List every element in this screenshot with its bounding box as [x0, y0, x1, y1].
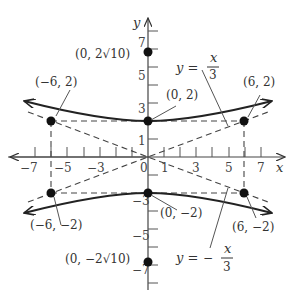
x-tick-label: 3	[192, 161, 200, 175]
point-label: (−6, 2)	[35, 75, 77, 89]
x-axis-label: x	[276, 160, 284, 175]
rect-corner-point	[240, 117, 249, 126]
x-tick-label: 5	[225, 161, 233, 175]
y-tick-label: −5	[132, 229, 150, 243]
point-label: (0, 2)	[166, 88, 198, 102]
point-label: (0, 2√10)	[75, 47, 130, 61]
x-tick-label: −5	[54, 161, 72, 175]
focus-top-point	[144, 48, 153, 57]
x-tick-label: −7	[20, 161, 38, 175]
asymptote-label-num: x	[210, 50, 218, 65]
hyperbola-graph: −7 −5 −3 0 1 3 5 7 x 7 5 3 1 −3 −5	[0, 0, 300, 298]
y-tick-label: 3	[138, 102, 146, 116]
point-label: (−6, −2)	[30, 218, 82, 232]
point-label: (6, −2)	[232, 220, 274, 234]
asymptote-label-den: 3	[209, 68, 217, 82]
asymptote-label-pos: y = x 3	[175, 50, 219, 82]
x-tick-label: 0	[140, 161, 148, 175]
y-tick-label: 1	[138, 134, 146, 148]
y-tick-label: 7	[138, 36, 146, 50]
point-label: (0, −2)	[160, 206, 202, 220]
x-tick-label: 7	[257, 161, 265, 175]
vertex-bottom-point	[144, 189, 153, 198]
x-tick-label: −3	[87, 161, 105, 175]
vertex-top-point	[144, 117, 153, 126]
asymptote-label-den: 3	[223, 260, 231, 274]
point-label: (0, −2√10)	[65, 252, 130, 266]
leader-lines	[54, 70, 260, 248]
y-axis-label: y	[132, 15, 141, 30]
y-tick-label: 5	[138, 69, 146, 83]
rect-corner-point	[47, 189, 56, 198]
focus-bottom-point	[144, 258, 153, 267]
asymptote-label-y: y =	[175, 60, 198, 75]
x-tick-label: 1	[161, 161, 169, 175]
asymptote-label-sign: −	[203, 251, 213, 265]
point-label: (6, 2)	[243, 75, 275, 89]
rect-corner-point	[240, 189, 249, 198]
rect-corner-point	[47, 117, 56, 126]
asymptote-label-y: y =	[175, 250, 198, 265]
asymptote-label-num: x	[224, 241, 232, 256]
asymptote-label-neg: y = − x 3	[175, 241, 233, 274]
